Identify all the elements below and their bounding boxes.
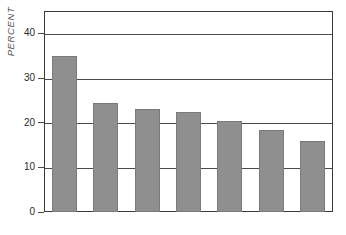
y-tick-label: 10: [5, 162, 35, 172]
bar-united-kingdom: UNITEDKINGDOM: [259, 130, 284, 212]
bars-container: JAPANW GERMANYCANADAFRANCEITALYUNITEDKIN…: [44, 11, 333, 212]
bar-chart: PERCENT 010203040 JAPANW GERMANYCANADAFR…: [0, 0, 346, 235]
bar-japan: JAPAN: [52, 56, 77, 212]
bar-france: FRANCE: [176, 112, 201, 212]
bar-italy: ITALY: [217, 121, 242, 212]
bar-w-germany: W GERMANY: [93, 103, 118, 212]
bar-united-states: UNITEDSTATES: [300, 141, 325, 212]
y-tick-label: 20: [5, 118, 35, 128]
y-tick-label: 40: [5, 28, 35, 38]
bar-canada: CANADA: [135, 109, 160, 212]
y-tick-label: 0: [5, 207, 35, 217]
y-tick-label: 30: [5, 73, 35, 83]
